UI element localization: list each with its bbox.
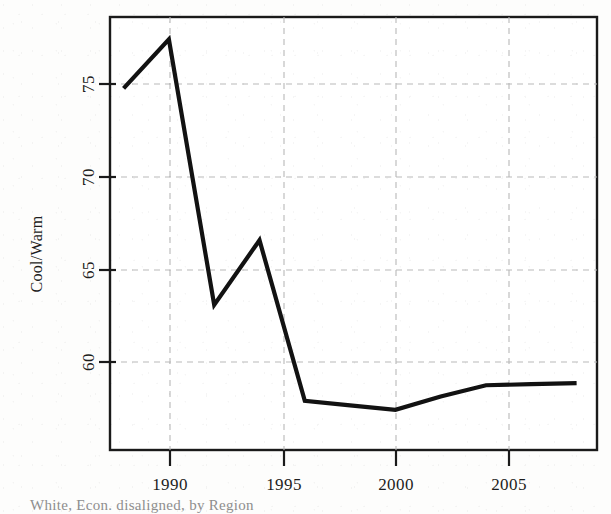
y-axis-title: Cool/Warm xyxy=(28,215,45,292)
line-chart: 75 70 65 60 1990 1995 2000 2005 Cool/War… xyxy=(0,0,611,514)
xtick-label-1995: 1995 xyxy=(266,475,302,494)
caption-clip-group: White, Econ. disaligned, by Region xyxy=(30,497,254,513)
ytick-label-60: 60 xyxy=(79,353,98,371)
figure-caption: White, Econ. disaligned, by Region xyxy=(30,497,254,513)
x-axis-tick-labels: 1990 1995 2000 2005 xyxy=(152,475,527,494)
ytick-label-65: 65 xyxy=(79,261,98,279)
xtick-label-1990: 1990 xyxy=(152,475,188,494)
figure-container: 75 70 65 60 1990 1995 2000 2005 Cool/War… xyxy=(0,0,611,514)
ytick-label-75: 75 xyxy=(79,75,98,93)
xtick-label-2000: 2000 xyxy=(378,475,414,494)
xtick-label-2005: 2005 xyxy=(491,475,527,494)
x-axis-tickmarks xyxy=(170,450,509,466)
ytick-label-70: 70 xyxy=(79,168,98,186)
y-axis-tick-labels: 75 70 65 60 xyxy=(79,75,98,371)
